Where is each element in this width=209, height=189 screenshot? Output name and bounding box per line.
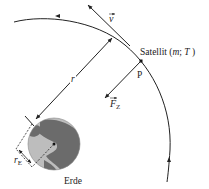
satellite-label: Satellit (m; T ): [140, 47, 195, 58]
velocity-label: v: [109, 13, 115, 24]
orbit-direction-arrow-top: [55, 14, 60, 18]
velocity-vector: [88, 5, 130, 46]
centripetal-force-vector: [105, 61, 141, 98]
radius-tick: [25, 116, 34, 126]
earth-globe: [28, 118, 80, 176]
velocity-symbol: v: [109, 13, 114, 24]
earth-label: Erde: [64, 176, 82, 186]
orbit-direction-arrow-right: [167, 157, 171, 162]
force-label: FZ: [109, 98, 120, 111]
point-label: P: [137, 70, 142, 80]
radius-label: r: [71, 74, 75, 84]
orbit-diagram: v Satellit (m; T ) P FZ r rE Erde: [0, 0, 209, 189]
force-symbol: FZ: [109, 98, 120, 111]
earth-radius-label: rE: [14, 155, 22, 167]
